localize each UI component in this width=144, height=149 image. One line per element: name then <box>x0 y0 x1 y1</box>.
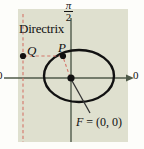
vertical-axis-label: π 2 <box>64 1 73 23</box>
point-focus-dot <box>67 74 74 81</box>
point-p-label: P <box>58 41 66 54</box>
conic-section-figure: π 2 Directrix Q P F = (0, 0) 0 0 <box>0 0 144 149</box>
pi-denominator: 2 <box>64 12 73 23</box>
point-q-dot <box>20 53 26 59</box>
point-q-label: Q <box>27 44 36 57</box>
pi-numerator: π <box>64 1 73 10</box>
polar-axis-zero-label-right: 0 <box>133 70 139 81</box>
focus-label: F = (0, 0) <box>76 116 122 128</box>
polar-axis-zero-label-left: 0 <box>0 70 3 81</box>
focus-coordinates: = (0, 0) <box>83 115 122 129</box>
directrix-label: Directrix <box>19 22 64 35</box>
